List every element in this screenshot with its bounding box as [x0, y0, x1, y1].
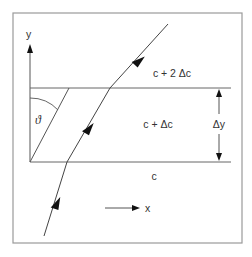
layer-top-label: c + 2 Δc: [153, 67, 191, 79]
theta-arc: [30, 98, 58, 110]
y-axis-arrowhead-icon: [27, 44, 33, 53]
layer-bottom-label: c: [151, 170, 156, 182]
y-axis-label: y: [26, 28, 32, 40]
x-axis-label: x: [145, 202, 151, 214]
layer-middle-label: c + Δc: [143, 118, 172, 130]
ray-arrowhead-icon-3: [132, 52, 147, 67]
diagram-canvas: y ϑ c + 2 Δc c + Δc c Δy x: [0, 0, 252, 257]
delta-y-label: Δy: [213, 118, 226, 130]
delta-y-up-arrowhead-icon: [216, 89, 222, 97]
theta-label: ϑ: [35, 113, 42, 127]
x-axis-arrowhead-icon: [132, 205, 140, 211]
delta-y-down-arrowhead-icon: [216, 153, 222, 161]
